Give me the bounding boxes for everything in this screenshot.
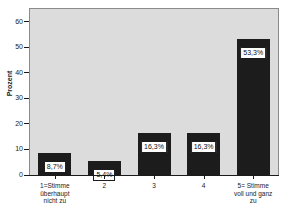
y-tick-mark — [24, 149, 29, 150]
y-tick-label: 30 — [15, 94, 23, 102]
bar-value-label: 53,3% — [240, 47, 266, 59]
x-tick-mark — [253, 176, 254, 179]
x-tick-mark — [104, 176, 105, 179]
y-tick-mark — [24, 123, 29, 124]
y-tick-mark — [24, 21, 29, 22]
bars-layer: 8,7%5,4%16,3%16,3%53,3% — [30, 9, 278, 175]
bar — [237, 39, 270, 175]
x-tick-mark — [204, 176, 205, 179]
y-tick: 0 — [0, 171, 29, 179]
y-tick: 20 — [0, 120, 29, 128]
y-tick-label: 10 — [15, 145, 23, 153]
bar-value-label: 16,3% — [141, 141, 167, 153]
y-tick: 40 — [0, 69, 29, 77]
y-tick: 30 — [0, 94, 29, 102]
x-axis-label: 5= Stimme voll und ganz zu — [221, 182, 285, 205]
y-tick: 50 — [0, 43, 29, 51]
bar-value-label: 16,3% — [191, 141, 217, 153]
x-tick-mark — [55, 176, 56, 179]
y-tick-mark — [24, 47, 29, 48]
y-tick: 10 — [0, 145, 29, 153]
bar-value-label: 8,7% — [44, 161, 66, 173]
y-axis-title: Prozent — [6, 54, 13, 114]
y-tick-label: 50 — [15, 43, 23, 51]
y-tick-label: 0 — [19, 171, 23, 179]
y-tick-label: 40 — [15, 69, 23, 77]
y-tick-mark — [24, 72, 29, 73]
y-tick-label: 20 — [15, 120, 23, 128]
bar — [138, 133, 171, 175]
y-tick-mark — [24, 98, 29, 99]
bar-chart: Prozent 0102030405060 8,7%5,4%16,3%16,3%… — [0, 0, 290, 219]
bar — [187, 133, 220, 175]
y-tick-label: 60 — [15, 18, 23, 26]
x-tick-mark — [154, 176, 155, 179]
y-tick: 60 — [0, 18, 29, 26]
